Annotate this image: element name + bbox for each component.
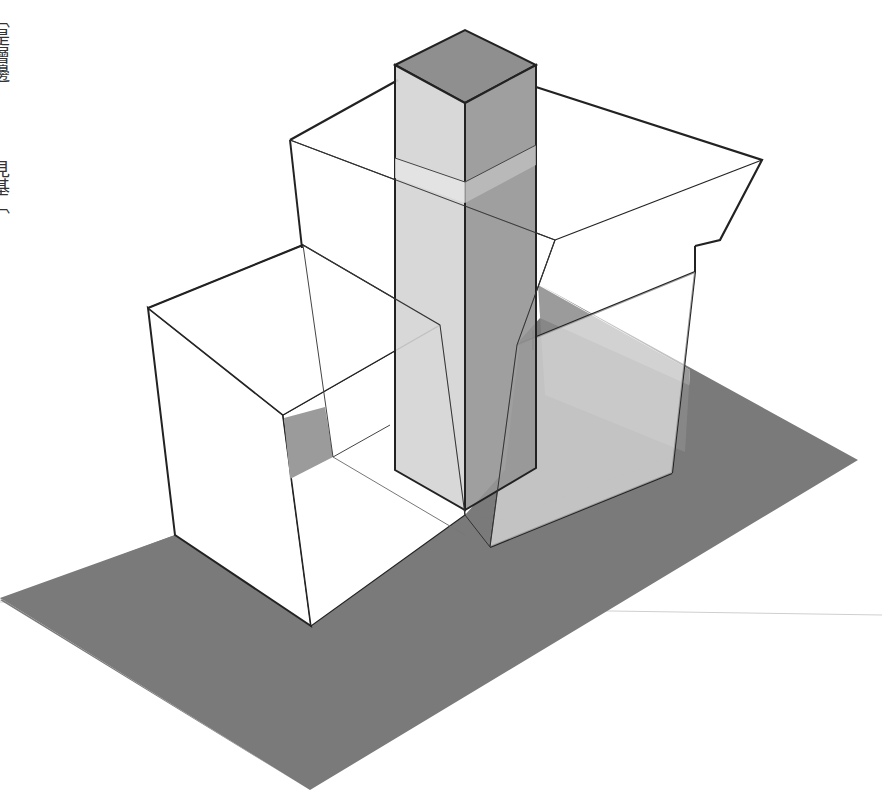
tower-left-face	[395, 65, 465, 510]
side-caption-bottom: 見基〔	[0, 160, 16, 214]
side-caption-top: 〔是層邊	[0, 10, 16, 82]
tower-right-face	[465, 65, 536, 510]
axonometric-diagram: 〔是層邊 見基〔	[0, 0, 882, 793]
diagram-canvas	[0, 0, 882, 793]
